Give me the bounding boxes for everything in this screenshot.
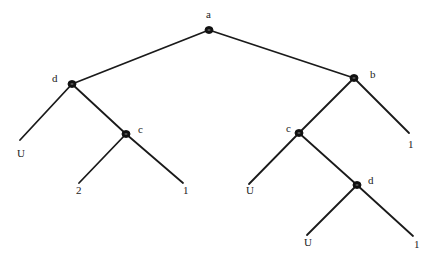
tree-labels: adcbcdU211UU1 [17,8,420,250]
decision-node-center [352,77,355,79]
tree-edge [354,78,409,133]
tree-edge [307,185,357,235]
tree-edges [20,30,413,236]
tree-edge [79,134,126,183]
tree-edge [249,133,299,184]
node-label: b [370,68,376,80]
node-label: c [138,123,143,135]
tree-edge [299,133,357,185]
leaf-payoff-label: 1 [183,184,189,196]
tree-edge [209,30,354,78]
game-tree-diagram: adcbcdU211UU1 [0,0,434,258]
node-label: d [368,174,374,186]
node-label: d [52,72,58,84]
leaf-payoff-label: U [17,147,25,159]
node-label: c [286,122,291,134]
tree-edge [72,30,209,84]
leaf-payoff-label: 2 [76,184,82,196]
tree-edge [72,84,126,134]
leaf-payoff-label: U [246,184,254,196]
decision-node-center [207,29,210,31]
node-label: a [206,8,211,20]
decision-node-center [355,184,358,186]
tree-edge [126,134,183,183]
tree-edge [299,78,354,133]
decision-node-center [297,132,300,134]
tree-nodes [68,27,361,189]
tree-edge [20,84,72,140]
leaf-payoff-label: 1 [408,138,414,150]
leaf-payoff-label: 1 [414,238,420,250]
decision-node-center [70,83,73,85]
decision-node-center [124,133,127,135]
leaf-payoff-label: U [304,236,312,248]
tree-edge [357,185,413,236]
